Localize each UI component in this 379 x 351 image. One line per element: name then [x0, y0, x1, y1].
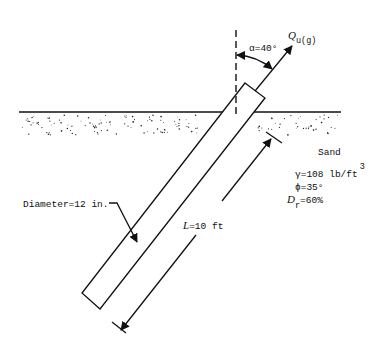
unit-weight: γ=108 lb/ft3	[295, 162, 365, 180]
length-tick-bottom	[112, 322, 126, 333]
friction-angle: ϕ=35°	[295, 182, 324, 193]
load-symbol: Q	[288, 29, 296, 41]
angle-label: α=40°	[249, 43, 278, 54]
relative-density: Dr=60%	[286, 193, 323, 211]
relative-density-value: =60%	[300, 195, 323, 206]
length-symbol: L	[182, 219, 189, 231]
length-value: =10 ft	[189, 221, 223, 232]
length-label: L=10 ft	[182, 219, 223, 232]
diameter-label: Diameter=12 in.	[23, 199, 109, 210]
angle-arc	[237, 55, 272, 69]
soil-name: Sand	[318, 147, 341, 158]
sand-hatching	[22, 114, 338, 135]
unit-weight-value: γ=108 lb/ft	[295, 169, 358, 180]
load-label: Qu(g)	[288, 29, 316, 46]
load-subscript: u(g)	[296, 36, 316, 46]
length-dimension-upper	[222, 139, 271, 201]
inclined-pile-diagram: α=40° Qu(g) L=10 ft Diameter=12 in. Sand…	[0, 0, 379, 351]
relative-density-symbol: D	[286, 193, 295, 205]
unit-weight-exponent: 3	[360, 162, 365, 172]
pile	[82, 83, 265, 309]
